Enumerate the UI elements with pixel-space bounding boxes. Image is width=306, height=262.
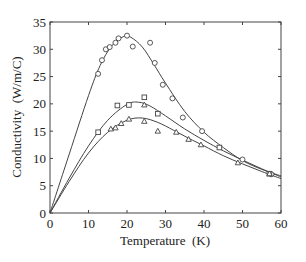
y-axis-ticks: 05101520253035 xyxy=(33,15,281,221)
triangle-marker xyxy=(119,121,124,126)
circle-marker xyxy=(240,157,245,162)
circle-marker xyxy=(148,40,153,45)
circle-marker xyxy=(116,36,121,41)
x-tick-label: 0 xyxy=(47,216,54,231)
circle-marker xyxy=(96,71,101,76)
x-tick-label: 30 xyxy=(159,216,172,231)
fit-curve-triangles xyxy=(50,118,281,213)
x-tick-label: 10 xyxy=(82,216,95,231)
plot-frame xyxy=(50,22,281,213)
square-marker xyxy=(115,103,120,108)
x-axis-label: Temperature (K) xyxy=(120,233,210,248)
y-tick-label: 0 xyxy=(40,206,47,221)
y-tick-label: 5 xyxy=(40,178,47,193)
data-markers xyxy=(96,33,274,177)
x-tick-label: 60 xyxy=(275,216,288,231)
y-axis-label: Conductivity (W/m/C) xyxy=(9,56,24,177)
circle-marker xyxy=(107,45,112,50)
square-marker xyxy=(156,111,161,116)
circle-marker xyxy=(152,60,157,65)
circle-marker xyxy=(200,129,205,134)
circle-marker xyxy=(130,44,135,49)
triangle-marker xyxy=(142,119,147,124)
square-marker xyxy=(127,103,132,108)
triangle-marker xyxy=(198,142,203,147)
x-tick-label: 50 xyxy=(236,216,249,231)
x-tick-label: 20 xyxy=(121,216,134,231)
x-tick-label: 40 xyxy=(198,216,211,231)
square-marker xyxy=(142,95,147,100)
circle-marker xyxy=(160,82,165,87)
conductivity-chart: 0102030405060 05101520253035 Temperature… xyxy=(0,0,306,262)
y-tick-label: 30 xyxy=(33,42,46,57)
y-tick-label: 15 xyxy=(33,124,46,139)
circle-marker xyxy=(125,33,130,38)
fit-curve-circles xyxy=(50,36,281,213)
square-marker xyxy=(217,145,222,150)
fit-curves xyxy=(50,36,281,213)
triangle-marker xyxy=(155,128,160,133)
y-tick-label: 20 xyxy=(33,96,46,111)
y-tick-label: 10 xyxy=(33,151,46,166)
y-tick-label: 35 xyxy=(33,15,46,30)
circle-marker xyxy=(170,96,175,101)
circle-marker xyxy=(180,115,185,120)
circle-marker xyxy=(99,58,104,63)
y-tick-label: 25 xyxy=(33,69,46,84)
square-marker xyxy=(96,130,101,135)
